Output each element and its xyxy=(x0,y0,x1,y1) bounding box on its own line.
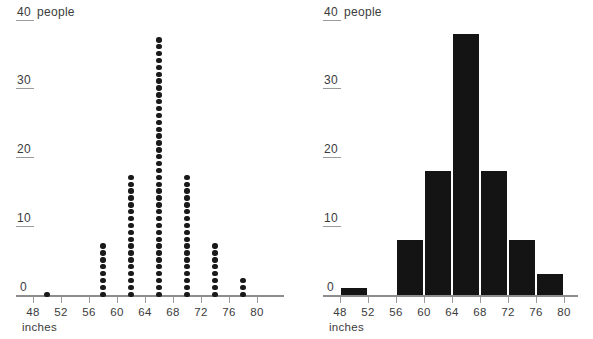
y-axis-label-30: 30 xyxy=(324,74,338,86)
y-tick-40 xyxy=(16,20,34,21)
data-dot xyxy=(156,65,161,70)
data-dot xyxy=(128,175,133,180)
data-dot xyxy=(184,175,189,180)
data-dot xyxy=(128,216,133,221)
x-tick-68 xyxy=(480,297,481,303)
data-dot xyxy=(100,285,105,290)
y-axis-label-40: 40 xyxy=(324,6,338,18)
y-axis-label-30: 30 xyxy=(17,74,31,86)
histogram-bar xyxy=(536,274,564,295)
data-dot xyxy=(128,209,133,214)
data-dot xyxy=(156,257,161,262)
y-axis-label-0: 0 xyxy=(20,281,27,293)
x-axis-title: inches xyxy=(329,321,364,333)
data-dot xyxy=(128,278,133,283)
data-dot xyxy=(128,271,133,276)
data-dot xyxy=(156,85,161,90)
data-dot xyxy=(156,250,161,255)
dot-stack xyxy=(156,0,163,295)
data-dot xyxy=(156,44,161,49)
dot-stack xyxy=(240,0,247,295)
data-dot xyxy=(156,133,161,138)
data-dot xyxy=(128,223,133,228)
y-axis-unit-label: people xyxy=(344,6,382,18)
data-dot xyxy=(128,257,133,262)
data-dot xyxy=(156,237,161,242)
data-dot xyxy=(212,243,217,248)
data-dot xyxy=(100,257,105,262)
data-dot xyxy=(184,271,189,276)
x-tick-80 xyxy=(257,297,258,303)
data-dot xyxy=(128,250,133,255)
data-dot xyxy=(212,264,217,269)
data-dot xyxy=(156,147,161,152)
data-dot xyxy=(128,195,133,200)
data-dot xyxy=(156,78,161,83)
data-dot xyxy=(156,92,161,97)
data-dot xyxy=(156,154,161,159)
histogram-bar xyxy=(340,288,368,295)
x-axis-label-56: 56 xyxy=(383,306,409,318)
x-axis-label-48: 48 xyxy=(327,306,353,318)
data-dot xyxy=(128,285,133,290)
data-dot xyxy=(156,188,161,193)
y-axis-label-40: 40 xyxy=(17,6,31,18)
x-tick-52 xyxy=(61,297,62,303)
histogram-bar xyxy=(452,34,480,295)
y-axis-unit-label: people xyxy=(37,6,75,18)
data-dot xyxy=(156,72,161,77)
histogram-bar xyxy=(424,171,452,295)
x-tick-60 xyxy=(424,297,425,303)
data-dot xyxy=(156,106,161,111)
x-axis-label-76: 76 xyxy=(216,306,242,318)
data-dot xyxy=(184,278,189,283)
y-tick-10 xyxy=(323,226,341,227)
data-dot xyxy=(128,292,133,297)
y-axis-label-10: 10 xyxy=(324,212,338,224)
x-tick-72 xyxy=(508,297,509,303)
data-dot xyxy=(184,257,189,262)
x-axis-label-52: 52 xyxy=(355,306,381,318)
x-axis-label-76: 76 xyxy=(523,306,549,318)
data-dot xyxy=(156,113,161,118)
x-tick-60 xyxy=(117,297,118,303)
x-axis-label-80: 80 xyxy=(551,306,577,318)
data-dot xyxy=(128,230,133,235)
histogram-bar xyxy=(396,240,424,295)
data-dot xyxy=(156,230,161,235)
data-dot xyxy=(212,257,217,262)
data-dot xyxy=(240,278,245,283)
data-dot xyxy=(184,195,189,200)
x-tick-76 xyxy=(536,297,537,303)
data-dot xyxy=(100,243,105,248)
data-dot xyxy=(184,230,189,235)
data-dot xyxy=(128,243,133,248)
data-dot xyxy=(212,250,217,255)
data-dot xyxy=(184,182,189,187)
data-dot xyxy=(184,264,189,269)
y-axis-label-10: 10 xyxy=(17,212,31,224)
x-axis-label-72: 72 xyxy=(188,306,214,318)
x-tick-56 xyxy=(396,297,397,303)
x-tick-72 xyxy=(201,297,202,303)
data-dot xyxy=(212,278,217,283)
data-dot xyxy=(156,37,161,42)
x-tick-64 xyxy=(452,297,453,303)
histogram-bar xyxy=(480,171,508,295)
x-axis-label-68: 68 xyxy=(160,306,186,318)
y-tick-30 xyxy=(323,88,341,89)
data-dot xyxy=(156,209,161,214)
data-dot xyxy=(156,216,161,221)
data-dot xyxy=(100,271,105,276)
y-axis-label-0: 0 xyxy=(327,281,334,293)
data-dot xyxy=(100,278,105,283)
data-dot xyxy=(156,175,161,180)
data-dot xyxy=(156,99,161,104)
data-dot xyxy=(128,202,133,207)
data-dot xyxy=(128,182,133,187)
data-dot xyxy=(156,127,161,132)
data-dot xyxy=(156,140,161,145)
x-axis-title: inches xyxy=(22,321,57,333)
x-tick-64 xyxy=(145,297,146,303)
data-dot xyxy=(156,168,161,173)
